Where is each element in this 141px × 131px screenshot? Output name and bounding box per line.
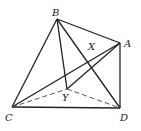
label-D: D (119, 112, 128, 123)
label-X: X (87, 41, 96, 52)
edge-YD (67, 89, 120, 108)
label-Y: Y (62, 92, 70, 103)
label-A: A (123, 38, 131, 49)
edge-CD (12, 107, 120, 108)
label-C: C (5, 112, 13, 123)
geometry-diagram: B A X Y C D (0, 0, 141, 131)
edge-BY (57, 19, 67, 89)
edge-BA (57, 19, 120, 43)
label-B: B (51, 7, 59, 18)
